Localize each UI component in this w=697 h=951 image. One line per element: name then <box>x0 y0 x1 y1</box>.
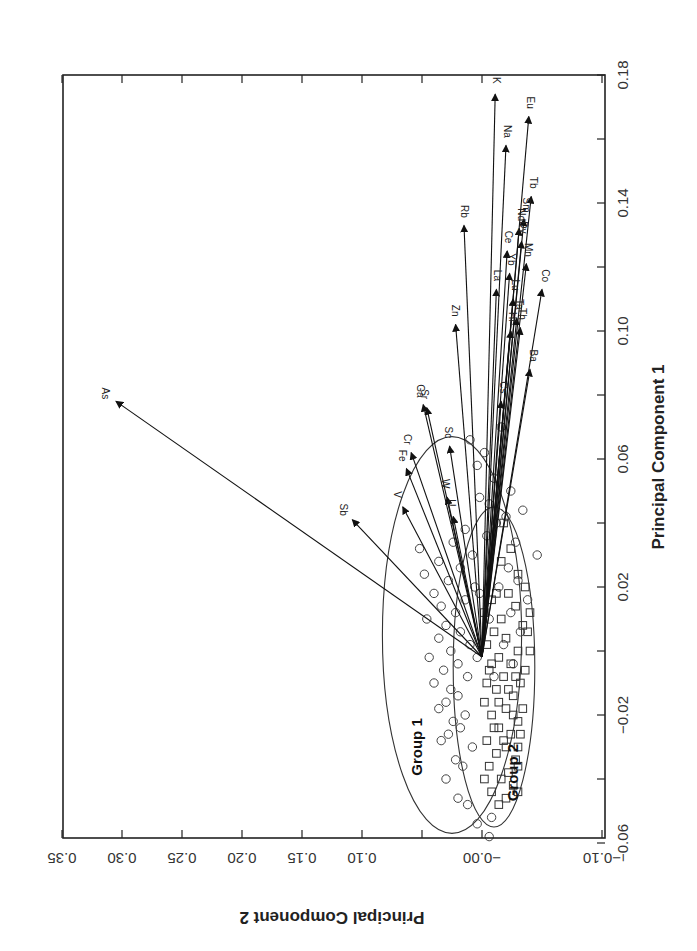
pc2-tick-label: 0.20 <box>227 850 256 867</box>
group2-point <box>481 698 489 706</box>
loading-label-sm: Sm <box>521 198 532 213</box>
pc1-tick-label: −0.02 <box>614 696 631 734</box>
pc2-tick-label: 0.10 <box>347 850 376 867</box>
loading-label-rb: Rb <box>459 205 470 218</box>
loading-label-v: V <box>392 491 403 498</box>
group2-point <box>485 762 493 770</box>
group2-point <box>493 750 501 758</box>
group1-point <box>487 813 495 821</box>
loading-label-co: Co <box>540 269 551 282</box>
loading-label-lu: Lu <box>510 279 521 290</box>
group2-point <box>495 654 503 662</box>
group2-point <box>483 737 491 745</box>
group1-point <box>442 775 450 783</box>
loading-label-k: K <box>491 77 502 84</box>
group1-point <box>456 724 464 732</box>
loading-label-mn: Mn <box>523 243 534 257</box>
pc2-tick-label: 0.35 <box>47 850 76 867</box>
loading-label-ce: Ce <box>503 231 514 244</box>
pc2-tick-label: 0.25 <box>167 850 196 867</box>
group2-point <box>495 801 503 809</box>
loading-label-yb: Yb <box>506 253 517 266</box>
pc2-tick-label: 0.15 <box>287 850 316 867</box>
plot-frame <box>63 75 605 838</box>
loading-label-la: La <box>492 270 503 282</box>
loading-arrow-as <box>116 401 482 657</box>
group2-point <box>507 660 515 668</box>
pc1-axis-title: Principal Component 1 <box>649 364 668 549</box>
loading-label-cs: Cs <box>498 381 509 393</box>
loading-labels: KEuNaRbTbNdSmCeDyLaYbMnLuCoHfTaThBaZnCsG… <box>100 77 551 516</box>
group2-point <box>488 711 496 719</box>
group1-point <box>468 743 476 751</box>
pc1-axis: −0.06−0.020.020.060.100.140.18 <box>597 60 631 862</box>
group1-point <box>437 602 445 610</box>
pc1-tick-label: 0.02 <box>614 572 631 601</box>
group1-point <box>435 634 443 642</box>
group1-point <box>451 756 459 764</box>
group1-point <box>485 832 493 840</box>
group1-point <box>435 704 443 712</box>
group1-point <box>435 557 443 565</box>
group2-point <box>517 730 525 738</box>
group1-point <box>442 698 450 706</box>
pc2-tick-label: 0.30 <box>107 850 136 867</box>
group1-point <box>473 820 481 828</box>
group1-point <box>507 487 515 495</box>
group1-point <box>415 544 423 552</box>
group2-point <box>526 647 534 655</box>
loading-label-w: W <box>440 479 451 489</box>
group-label-1: Group 1 <box>408 718 425 776</box>
group1-point <box>454 660 462 668</box>
group2-point <box>495 724 503 732</box>
loading-label-cr: Cr <box>402 434 413 445</box>
group2-point <box>483 679 491 687</box>
group1-point <box>509 660 517 668</box>
group2-point <box>521 583 529 591</box>
group2-point <box>500 673 508 681</box>
group1-point <box>430 679 438 687</box>
loading-label-sr: Sr <box>419 389 430 400</box>
loading-label-u: U <box>446 499 457 506</box>
group1-point <box>461 711 469 719</box>
group2-point <box>514 647 522 655</box>
loading-label-as: As <box>100 388 111 400</box>
group1-point <box>437 736 445 744</box>
group2-point <box>495 698 503 706</box>
pc1-tick-label: 0.10 <box>614 316 631 345</box>
group1-point <box>420 570 428 578</box>
group2-point <box>497 615 505 623</box>
group2-point <box>490 724 498 732</box>
group1-point <box>463 800 471 808</box>
group1-point <box>533 551 541 559</box>
group2-point <box>505 590 513 598</box>
pc2-axis-title: Principal Component 2 <box>239 908 424 927</box>
group1-point <box>519 506 527 514</box>
pc2-tick-label: −0.00 <box>463 850 501 867</box>
loading-label-dy: Dy <box>518 221 529 233</box>
group1-point <box>425 653 433 661</box>
pc1-tick-label: 0.06 <box>614 444 631 473</box>
loading-label-th: Th <box>517 308 528 320</box>
group2-point <box>521 666 529 674</box>
pc1-tick-label: 0.18 <box>614 60 631 89</box>
group1-point <box>439 666 447 674</box>
group2-point <box>490 628 498 636</box>
group-labels: Group 1Group 2 <box>408 718 521 801</box>
loading-arrows <box>116 94 542 657</box>
loading-label-fe: Fe <box>397 450 408 462</box>
pc2-axis: −0.10−0.000.100.150.200.250.300.35 <box>47 75 621 867</box>
group1-point <box>468 551 476 559</box>
group1-point <box>449 717 457 725</box>
loading-label-sb: Sb <box>338 504 349 517</box>
loading-arrow-zn <box>456 325 482 657</box>
group1-point <box>463 672 471 680</box>
loading-label-sc: Sc <box>443 427 454 439</box>
pca-biplot-chart: KEuNaRbTbNdSmCeDyLaYbMnLuCoHfTaThBaZnCsG… <box>0 0 697 951</box>
group2-point <box>493 686 501 694</box>
group-label-2: Group 2 <box>504 744 521 802</box>
group1-point <box>523 596 531 604</box>
loading-label-na: Na <box>502 125 513 138</box>
loading-label-eu: Eu <box>525 97 536 109</box>
group1-point <box>475 493 483 501</box>
